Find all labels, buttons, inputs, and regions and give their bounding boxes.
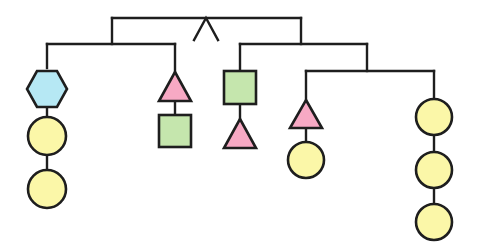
left-rod (47, 44, 175, 72)
right-strand (416, 99, 452, 240)
square-icon (159, 115, 191, 147)
middle-strand (224, 71, 256, 148)
triangle-icon (224, 119, 256, 148)
left-strand (27, 71, 67, 208)
lower-left-strand (288, 100, 324, 178)
left-center-strand (159, 72, 191, 147)
hexagon-icon (27, 71, 67, 107)
triangle-icon (159, 72, 191, 101)
top-rod (112, 18, 301, 44)
pivot-caret-icon (194, 18, 218, 40)
circle-icon (288, 142, 324, 178)
mobile-diagram (0, 0, 482, 245)
circle-icon (416, 204, 452, 240)
circle-icon (416, 152, 452, 188)
circle-icon (28, 170, 66, 208)
circle-icon (28, 117, 66, 155)
middle-rod (240, 44, 367, 71)
triangle-icon (290, 100, 322, 128)
circle-icon (416, 99, 452, 135)
square-icon (224, 71, 256, 104)
lower-right-rod (306, 71, 434, 100)
